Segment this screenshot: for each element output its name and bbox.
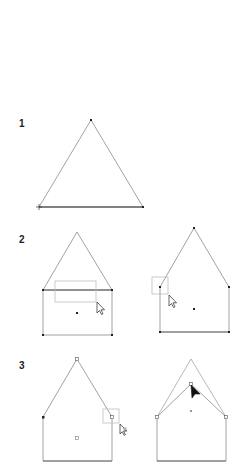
triangle-shape — [36, 119, 144, 210]
center-point — [190, 410, 192, 412]
anchor-point[interactable] — [111, 289, 113, 291]
anchor-point-hollow[interactable] — [225, 416, 228, 419]
anchor-point[interactable] — [42, 416, 45, 419]
direct-select-cursor-icon — [120, 424, 127, 435]
pen-cursor-icon — [36, 204, 42, 210]
anchor-point[interactable] — [228, 331, 230, 333]
anchor-point[interactable] — [42, 334, 44, 336]
anchor-point-hollow[interactable] — [76, 358, 79, 361]
arrow-cursor-icon — [169, 295, 177, 308]
house-shape-2a — [42, 232, 113, 336]
arrow-cursor-icon — [97, 302, 105, 315]
marquee-selection — [55, 281, 96, 302]
anchor-point-hollow[interactable] — [111, 416, 114, 419]
anchor-point[interactable] — [159, 331, 161, 333]
center-point — [76, 312, 78, 314]
anchor-point[interactable] — [42, 289, 44, 291]
anchor-point[interactable] — [111, 334, 113, 336]
anchor-point[interactable] — [142, 206, 144, 208]
house-shape-3a — [42, 358, 127, 462]
anchor-point[interactable] — [228, 286, 230, 288]
anchor-point-hollow[interactable] — [156, 416, 159, 419]
center-point — [193, 308, 195, 310]
center-point — [76, 437, 79, 440]
diagram-canvas — [0, 0, 245, 464]
house-shape-2b — [152, 227, 230, 333]
anchor-point[interactable] — [159, 286, 161, 288]
house-shape-3b — [156, 359, 228, 461]
anchor-point[interactable] — [193, 227, 195, 229]
anchor-point[interactable] — [90, 119, 92, 121]
